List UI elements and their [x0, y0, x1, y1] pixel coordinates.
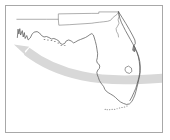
island-dot: [124, 106, 126, 107]
island-dot: [47, 39, 49, 40]
island-dot: [109, 109, 111, 110]
map-frame-border: [5, 5, 163, 133]
island-dot: [114, 109, 116, 110]
island-dot: [111, 109, 113, 110]
island-dot: [64, 45, 66, 46]
island-dot: [106, 109, 108, 110]
map-canvas: [6, 6, 162, 132]
island-dot: [54, 41, 56, 42]
island-dot: [119, 107, 121, 108]
island-dot: [116, 108, 118, 109]
map-background: [6, 6, 162, 132]
map-figure: Florida outline map with northwest-point…: [0, 0, 170, 140]
island-dot: [104, 109, 106, 110]
island-dot: [57, 42, 59, 43]
island-dot: [50, 40, 52, 41]
island-dot: [60, 45, 62, 46]
island-dot: [126, 105, 128, 106]
island-dot: [43, 39, 45, 40]
island-dot: [121, 107, 123, 108]
